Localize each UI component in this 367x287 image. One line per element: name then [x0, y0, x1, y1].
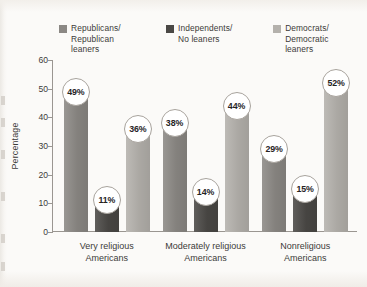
y-axis-label: Percentage [10, 60, 22, 232]
scan-artifact-mark [1, 96, 5, 105]
scan-artifact-mark [1, 118, 5, 127]
plot-area: 0102030405060 49%11%36%38%14%44%29%15%52… [52, 60, 357, 232]
y-axis-tick-label: 50 [38, 84, 48, 94]
y-axis-tick-label: 60 [38, 55, 48, 65]
scan-artifact-mark [1, 150, 5, 159]
bar-value-badge: 15% [291, 175, 319, 203]
y-axis-tick [48, 89, 53, 90]
scan-edge-artifact [0, 0, 7, 287]
scan-artifact-mark [1, 262, 5, 271]
scan-artifact-mark [1, 192, 5, 201]
scan-shadow-top [0, 0, 367, 12]
y-axis-tick [48, 203, 53, 204]
bar-shading [126, 129, 150, 232]
bar-value-badge: 49% [62, 78, 90, 106]
bar-value-badge: 29% [260, 135, 288, 163]
legend-label: Republicans/ Republican leaners [71, 23, 121, 55]
chart-figure: Republicans/ Republican leaners Independ… [0, 0, 367, 287]
y-axis-tick-label: 40 [38, 112, 48, 122]
y-axis-tick [48, 60, 53, 61]
scan-shadow-bottom [0, 271, 367, 287]
bar-value-badge: 36% [124, 115, 152, 143]
bar [163, 123, 187, 232]
y-axis-tick [48, 146, 53, 147]
bar-value-badge: 38% [161, 109, 189, 137]
legend-label: Independents/ No leaners [178, 23, 232, 44]
legend-item-republicans: Republicans/ Republican leaners [59, 23, 156, 55]
legend-item-independents: Independents/ No leaners [166, 23, 263, 44]
bar [225, 106, 249, 232]
y-axis-tick-label: 30 [38, 141, 48, 151]
y-axis-tick-label: 0 [43, 227, 48, 237]
y-axis-tick [48, 175, 53, 176]
legend-item-democrats: Democrats/ Democratic leaners [273, 23, 359, 55]
bar [324, 83, 348, 232]
bar-value-badge: 52% [322, 69, 350, 97]
x-axis-category-label: Nonreligious Americans [245, 240, 365, 264]
bar-value-badge: 44% [223, 92, 251, 120]
bar [126, 129, 150, 232]
legend-swatch-icon [273, 25, 281, 33]
scan-artifact-mark [1, 234, 5, 243]
bar-shading [225, 106, 249, 232]
legend-swatch-icon [166, 25, 174, 33]
legend-swatch-icon [59, 25, 67, 33]
bar-value-badge: 14% [192, 178, 220, 206]
y-axis-tick [48, 117, 53, 118]
bar [64, 92, 88, 232]
y-axis-tick-label: 20 [38, 170, 48, 180]
bar-shading [324, 83, 348, 232]
y-axis-tick-label: 10 [38, 198, 48, 208]
legend-label: Democrats/ Democratic leaners [285, 23, 329, 55]
bar-shading [64, 92, 88, 232]
bar-shading [163, 123, 187, 232]
y-axis-tick [48, 232, 53, 233]
